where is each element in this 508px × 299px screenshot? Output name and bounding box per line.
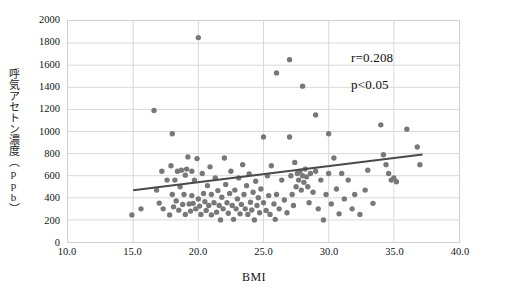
x-axis-tick-label: 35.0 bbox=[385, 247, 403, 258]
scatter-chart-figure: 呼気アセトン濃度（ppb） 02004006008001000120014001… bbox=[0, 0, 508, 299]
x-axis-tick-label: 30.0 bbox=[320, 247, 338, 258]
x-axis-title: BMI bbox=[0, 270, 508, 285]
x-axis-tick-label: 15.0 bbox=[123, 247, 141, 258]
x-axis-tick-labels: 10.015.020.025.030.035.040.0 bbox=[0, 0, 508, 299]
x-axis-tick-label: 40.0 bbox=[451, 247, 469, 258]
x-axis-tick-label: 25.0 bbox=[254, 247, 272, 258]
x-axis-tick-label: 10.0 bbox=[58, 247, 76, 258]
x-axis-tick-label: 20.0 bbox=[189, 247, 207, 258]
